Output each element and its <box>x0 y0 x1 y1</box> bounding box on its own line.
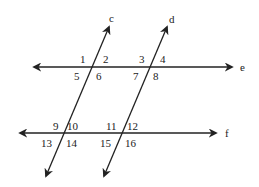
angle-1: 1 <box>80 53 86 65</box>
angle-12: 12 <box>127 120 138 132</box>
angle-13: 13 <box>41 137 53 149</box>
label-c: c <box>109 12 114 24</box>
angle-16: 16 <box>125 137 137 149</box>
transversal-diagram: c d e f 1 2 5 6 3 4 7 8 9 10 13 14 11 12… <box>0 0 259 187</box>
angle-14: 14 <box>66 137 78 149</box>
label-e: e <box>240 61 245 73</box>
line-c <box>46 27 109 176</box>
label-f: f <box>225 127 229 139</box>
angle-3: 3 <box>139 53 145 65</box>
angle-6: 6 <box>96 70 102 82</box>
angle-11: 11 <box>106 120 117 132</box>
angle-2: 2 <box>103 53 109 65</box>
angle-10: 10 <box>67 120 79 132</box>
angle-7: 7 <box>133 70 139 82</box>
angle-5: 5 <box>74 70 80 82</box>
angle-15: 15 <box>100 137 112 149</box>
line-d <box>104 27 167 176</box>
label-d: d <box>169 13 175 25</box>
angle-4: 4 <box>160 53 166 65</box>
angle-9: 9 <box>53 120 59 132</box>
angle-8: 8 <box>153 70 159 82</box>
